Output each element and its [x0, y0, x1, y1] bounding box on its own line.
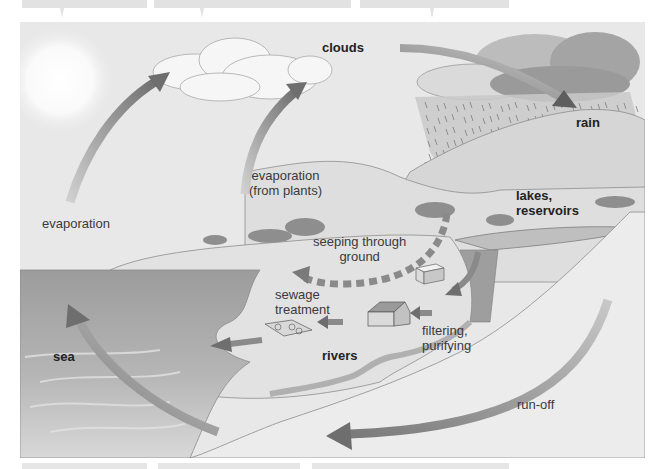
label-evaporation-plants: evaporation (from plants): [249, 168, 322, 198]
label-evaporation-plants-line1: evaporation: [249, 168, 322, 183]
label-evaporation-plants-line2: (from plants): [249, 183, 322, 198]
label-rivers: rivers: [322, 348, 357, 363]
label-lakes-reservoirs: lakes, reservoirs: [516, 188, 579, 218]
label-sewage-line1: sewage: [275, 287, 330, 302]
label-sea: sea: [53, 349, 75, 364]
label-seeping-line1: seeping through: [313, 234, 406, 249]
top-bar-right: [360, 0, 509, 8]
label-sewage-line2: treatment: [275, 302, 330, 317]
label-sewage-treatment: sewage treatment: [275, 287, 330, 317]
bottom-bar-middle: [158, 463, 300, 469]
pointer-tick: [60, 8, 64, 18]
label-filtering-line1: filtering,: [422, 323, 471, 338]
label-clouds: clouds: [322, 40, 364, 55]
label-lakes-line1: lakes,: [516, 188, 579, 203]
bottom-bar-right: [312, 463, 509, 469]
water-cycle-diagram: clouds rain evaporation evaporation (fro…: [20, 22, 645, 458]
label-seeping-through-ground: seeping through ground: [313, 234, 406, 264]
top-bar-left: [22, 0, 147, 8]
top-bar-middle: [154, 0, 351, 8]
label-seeping-line2: ground: [313, 249, 406, 264]
filter-plant-icon: [416, 264, 444, 284]
label-evaporation: evaporation: [42, 216, 110, 231]
pointer-tick: [200, 8, 204, 18]
label-lakes-line2: reservoirs: [516, 203, 579, 218]
label-runoff: run-off: [517, 397, 554, 412]
label-filtering-line2: purifying: [422, 338, 471, 353]
bottom-bar-left: [22, 463, 147, 469]
label-rain: rain: [576, 115, 600, 130]
label-filtering-purifying: filtering, purifying: [422, 323, 471, 353]
pointer-tick: [430, 8, 434, 18]
